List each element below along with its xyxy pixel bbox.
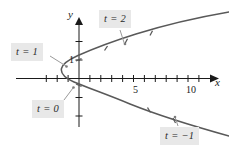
x-axis-label: x — [215, 76, 220, 88]
callout-t-equals-2: t = 2 — [99, 10, 131, 28]
x-axis — [16, 75, 219, 83]
callout-t-equals-1: t = 1 — [11, 43, 43, 61]
point-marker-tm1 — [174, 116, 177, 119]
curve-path — [61, 12, 229, 136]
leader-line-t0 — [64, 88, 73, 100]
y-axis-label: y — [68, 8, 73, 20]
curve-tick-t-1p5 — [105, 46, 108, 51]
point-marker-t1 — [65, 65, 68, 68]
y-tick-label-1: 1 — [69, 54, 74, 65]
leader-line-t2 — [120, 30, 125, 44]
parametric-curve — [61, 12, 229, 136]
leader-line-t1 — [50, 56, 66, 66]
y-axis-arrowhead — [75, 17, 83, 25]
point-marker-t0 — [72, 86, 75, 89]
x-tick-label-10: 10 — [186, 84, 196, 95]
x-tick-label-5: 5 — [133, 84, 138, 95]
parametric-curve-figure: y x 1 5 10 t = 1 t = 2 t = 0 t = −1 — [0, 0, 229, 151]
y-axis — [75, 17, 83, 127]
point-marker-t2 — [124, 43, 127, 46]
curve-tick-t-2p5 — [150, 31, 153, 36]
callout-t-equals-0: t = 0 — [32, 100, 64, 118]
callout-t-equals-minus-1: t = −1 — [160, 127, 199, 145]
